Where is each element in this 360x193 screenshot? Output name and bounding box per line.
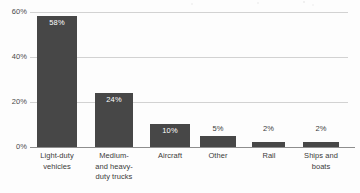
- category-line: Ships and: [291, 151, 351, 162]
- gridline-60: [30, 12, 348, 13]
- gridline-40: [30, 57, 348, 58]
- bar-value-light-duty-vehicles: 58%: [37, 19, 77, 27]
- category-line: Medium-: [84, 151, 144, 162]
- y-tick-label-60: 60%: [0, 8, 27, 16]
- category-line: vehicles: [27, 162, 87, 173]
- bar-other: 5%: [200, 136, 236, 147]
- category-line: duty trucks: [84, 172, 144, 183]
- category-line: Rail: [239, 151, 299, 162]
- gridline-20: [30, 102, 348, 103]
- bar-value-medium-heavy-duty-trucks: 24%: [95, 96, 133, 104]
- bar-value-ships-and-boats: 2%: [303, 125, 339, 133]
- category-label-medium-heavy-duty-trucks: Medium- and heavy- duty trucks: [84, 151, 144, 183]
- y-tick-label-0: 0%: [0, 143, 27, 151]
- plot-area: 60% 40% 20% 0% 58% 24% 10% 5% 2% 2% Lig: [30, 0, 360, 148]
- emissions-bar-chart: 60% 40% 20% 0% 58% 24% 10% 5% 2% 2% Lig: [0, 0, 360, 193]
- category-line: boats: [291, 162, 351, 173]
- category-line: and heavy-: [84, 162, 144, 173]
- category-label-ships-and-boats: Ships and boats: [291, 151, 351, 172]
- bar-light-duty-vehicles: 58%: [37, 16, 77, 147]
- category-label-rail: Rail: [239, 151, 299, 162]
- category-line: Light-duty: [27, 151, 87, 162]
- bar-medium-heavy-duty-trucks: 24%: [95, 93, 133, 147]
- y-tick-label-40: 40%: [0, 53, 27, 61]
- category-label-light-duty-vehicles: Light-duty vehicles: [27, 151, 87, 172]
- bar-ships-and-boats: 2%: [303, 142, 339, 147]
- bar-value-other: 5%: [200, 125, 236, 133]
- bar-value-aircraft: 10%: [150, 127, 190, 135]
- y-tick-label-20: 20%: [0, 98, 27, 106]
- bar-rail: 2%: [252, 142, 285, 147]
- x-axis-line: [30, 147, 355, 148]
- bar-value-rail: 2%: [252, 125, 285, 133]
- bar-aircraft: 10%: [150, 124, 190, 147]
